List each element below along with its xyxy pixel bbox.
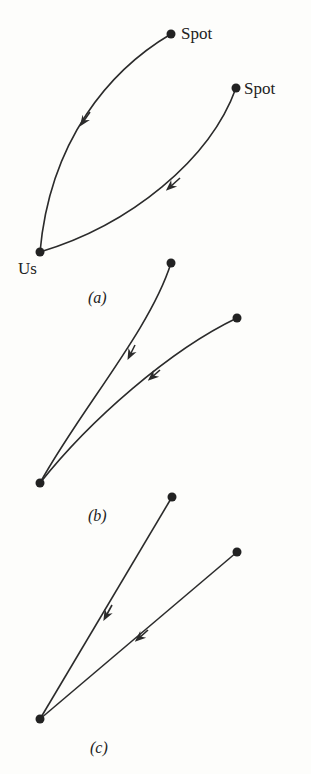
panel-c	[40, 497, 237, 719]
spot-label-2: Spot	[244, 80, 275, 97]
caption-b: (b)	[88, 508, 107, 524]
panel-b	[40, 263, 237, 483]
figure: Spot Spot Us (a) (b) (c)	[0, 0, 311, 774]
spot-dot-2	[232, 84, 241, 93]
us-label: Us	[18, 260, 37, 277]
spot-dot-1	[168, 493, 177, 502]
spot-label-1: Spot	[181, 25, 212, 42]
caption-a: (a)	[88, 290, 107, 306]
straight-path-2	[40, 552, 237, 719]
curve-path-2	[40, 318, 237, 483]
straight-path-1	[40, 497, 172, 719]
us-dot	[36, 479, 45, 488]
spot-dot-1	[167, 259, 176, 268]
diagram-canvas	[0, 0, 311, 774]
curve-path-2	[40, 88, 236, 252]
spot-dot-1	[167, 30, 176, 39]
spot-dot-2	[233, 314, 242, 323]
us-dot	[36, 248, 45, 257]
panel-a	[40, 34, 236, 252]
us-dot	[36, 715, 45, 724]
arrow-head-icon	[130, 345, 135, 355]
caption-c: (c)	[90, 740, 108, 756]
spot-dot-2	[233, 548, 242, 557]
curve-path-1	[40, 34, 171, 252]
